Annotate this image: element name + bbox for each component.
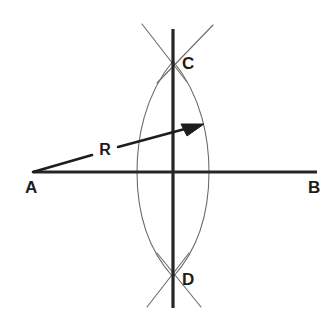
label-point-a: A xyxy=(25,178,37,197)
label-point-b: B xyxy=(308,178,320,197)
geometry-diagram: A B C D R xyxy=(0,0,336,314)
geometry-canvas: A B C D R xyxy=(0,0,336,314)
label-point-c: C xyxy=(182,54,194,73)
label-point-d: D xyxy=(182,270,194,289)
label-radius-r: R xyxy=(99,141,111,158)
